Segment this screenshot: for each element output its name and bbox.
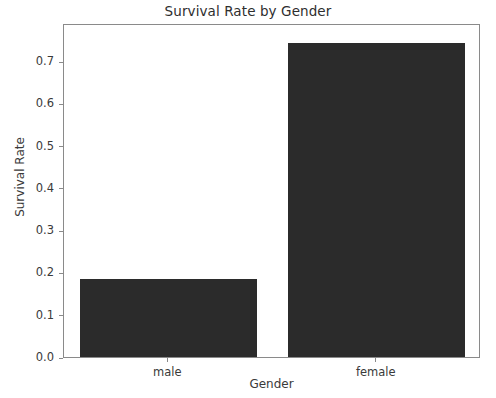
x-tick-mark (375, 358, 376, 362)
y-tick-label: 0.1 (36, 308, 54, 322)
y-tick-mark (59, 104, 63, 105)
y-tick-mark (59, 62, 63, 63)
y-tick-mark (59, 231, 63, 232)
bar-female (288, 43, 465, 357)
bar-male (80, 279, 257, 357)
y-axis-label: Survival Rate (13, 77, 27, 277)
y-tick-label: 0.5 (36, 139, 54, 153)
y-tick-label: 0.4 (36, 181, 54, 195)
y-tick-mark (59, 315, 63, 316)
plot-area (63, 24, 480, 358)
y-tick-mark (59, 273, 63, 274)
y-tick-mark (59, 188, 63, 189)
y-tick-mark (59, 146, 63, 147)
x-axis-label: Gender (63, 377, 480, 391)
x-tick-mark (167, 358, 168, 362)
y-tick-label: 0.2 (36, 265, 54, 279)
y-tick-mark (59, 358, 63, 359)
chart-title: Survival Rate by Gender (0, 3, 496, 19)
y-tick-label: 0.7 (36, 54, 54, 68)
y-tick-label: 0.3 (36, 223, 54, 237)
chart-figure: Survival Rate by Gender 0.00.10.20.30.40… (0, 0, 496, 398)
y-tick-label: 0.6 (36, 96, 54, 110)
y-tick-label: 0.0 (36, 350, 54, 364)
bars-layer (64, 25, 479, 357)
